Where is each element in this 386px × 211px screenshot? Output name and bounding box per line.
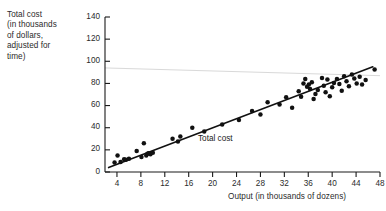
data-point <box>112 160 117 165</box>
x-tick-label-36: 36 <box>298 179 318 188</box>
data-point <box>311 97 316 102</box>
data-point <box>344 79 349 84</box>
data-point <box>350 72 355 77</box>
data-point <box>290 106 295 111</box>
x-tick-label-16: 16 <box>179 179 199 188</box>
y-tick-label-20: 20 <box>74 144 100 153</box>
data-point <box>202 129 207 134</box>
data-point <box>335 77 340 82</box>
data-point <box>357 75 362 80</box>
data-point <box>220 122 225 127</box>
y-tick-label-0: 0 <box>74 167 100 176</box>
x-tick-label-12: 12 <box>155 179 175 188</box>
data-point <box>323 90 328 95</box>
data-point <box>277 102 282 107</box>
data-point <box>360 82 365 87</box>
data-point <box>328 94 333 99</box>
x-tick-label-44: 44 <box>346 179 366 188</box>
x-tick-label-48: 48 <box>370 179 386 188</box>
data-point <box>354 81 359 86</box>
data-point <box>176 139 181 144</box>
scatter-chart-figure: Total cost (in thousands of dollars, adj… <box>0 0 386 211</box>
x-tick-label-4: 4 <box>107 179 127 188</box>
data-point <box>115 153 120 158</box>
y-tick-label-80: 80 <box>74 78 100 87</box>
data-point <box>337 82 342 87</box>
data-point <box>325 77 330 82</box>
x-tick-label-24: 24 <box>227 179 247 188</box>
data-point <box>250 109 255 114</box>
y-tick-label-100: 100 <box>74 56 100 65</box>
x-tick-label-40: 40 <box>322 179 342 188</box>
y-tick-label-120: 120 <box>74 34 100 43</box>
y-tick-label-140: 140 <box>74 12 100 21</box>
data-point <box>352 76 357 81</box>
data-point <box>303 77 308 82</box>
data-point <box>170 137 175 142</box>
data-point <box>284 95 289 100</box>
data-point <box>313 92 318 97</box>
data-point <box>134 149 139 154</box>
data-point <box>339 88 344 93</box>
data-point <box>342 74 347 79</box>
data-point <box>296 89 301 94</box>
x-tick-label-28: 28 <box>250 179 270 188</box>
data-point <box>139 155 144 160</box>
scan-artifact-line <box>105 68 380 76</box>
data-point <box>178 134 183 139</box>
data-point <box>310 80 315 85</box>
data-point <box>127 156 132 161</box>
y-tick-label-40: 40 <box>74 122 100 131</box>
data-point <box>142 141 147 146</box>
data-point <box>322 83 327 88</box>
data-point <box>258 112 263 117</box>
data-point <box>332 81 337 86</box>
x-tick-label-32: 32 <box>274 179 294 188</box>
data-point <box>190 125 195 130</box>
x-tick-label-8: 8 <box>131 179 151 188</box>
data-point <box>265 100 270 105</box>
data-point <box>316 88 321 93</box>
data-point <box>237 118 242 123</box>
data-point <box>363 78 368 83</box>
data-point <box>308 87 313 92</box>
x-tick-label-20: 20 <box>203 179 223 188</box>
y-tick-label-60: 60 <box>74 100 100 109</box>
data-point <box>320 76 325 81</box>
data-point <box>347 84 352 89</box>
data-point <box>299 94 304 99</box>
data-point <box>330 85 335 90</box>
data-point <box>118 160 123 165</box>
data-point <box>372 67 377 72</box>
data-point <box>301 81 306 86</box>
data-point <box>151 150 156 155</box>
